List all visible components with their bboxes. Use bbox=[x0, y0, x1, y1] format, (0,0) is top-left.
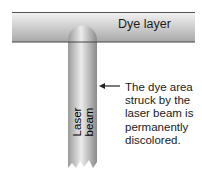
callout-text: The dye area struck by the laser beam is… bbox=[125, 81, 201, 147]
callout-line: laser beam is bbox=[125, 107, 201, 120]
callout-line: The dye area bbox=[125, 81, 201, 94]
callout-line: permanently bbox=[125, 121, 201, 134]
laser-beam-label: Laser beam bbox=[71, 97, 95, 147]
callout-line: struck by the bbox=[125, 94, 201, 107]
callout-line: discolored. bbox=[125, 134, 201, 147]
arrow-icon bbox=[99, 83, 120, 89]
dye-layer-label: Dye layer bbox=[118, 17, 171, 31]
